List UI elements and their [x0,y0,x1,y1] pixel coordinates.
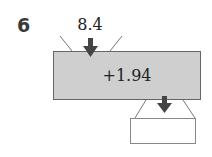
input-arrow-icon [83,38,98,57]
answer-box[interactable] [130,118,196,144]
output-arrow-icon [157,96,172,113]
